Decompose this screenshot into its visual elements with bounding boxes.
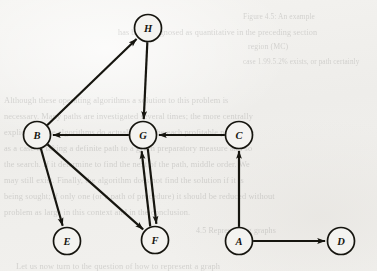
graph-node-a: A [226,228,253,255]
node-label: F [150,235,158,246]
graph-edge-b-to-e [41,149,63,226]
graph-node-h: H [135,15,162,42]
node-label: C [235,130,243,141]
node-label: D [336,236,345,247]
node-label: H [143,23,153,34]
graph-node-f: F [142,227,169,254]
graph-edge-b-to-h [47,39,136,125]
node-label: G [139,130,147,141]
graph-edge-b-to-f [48,144,144,229]
node-label: A [234,236,242,247]
figure-page: Figure 4.5: An examplehas been diagnosed… [0,0,377,271]
node-label: E [62,236,70,247]
directed-graph-figure: HBGCEFAD [0,0,377,271]
graph-node-d: D [328,228,355,255]
node-label: B [32,130,40,141]
graph-node-g: G [130,122,157,149]
edge-layer [41,39,325,241]
graph-node-c: C [226,122,253,149]
graph-node-e: E [54,228,81,255]
graph-node-b: B [24,122,51,149]
graph-edge-h-to-g [144,42,148,119]
